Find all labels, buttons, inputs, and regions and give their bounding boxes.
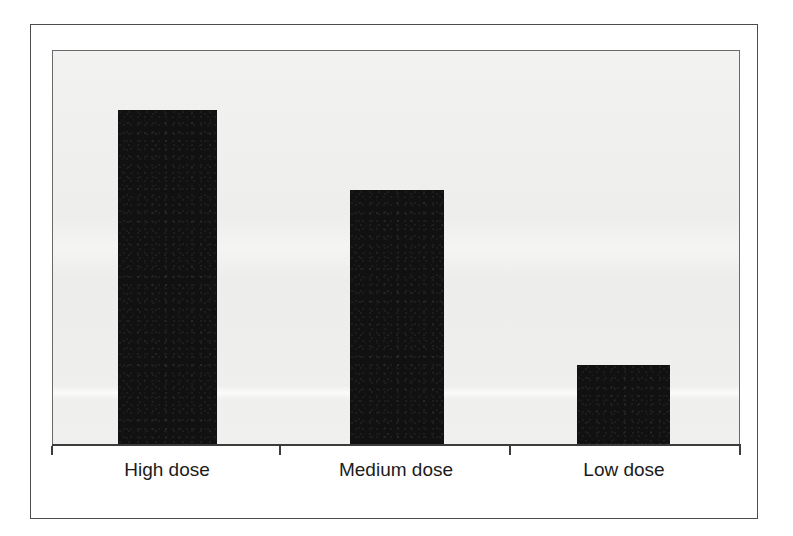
x-axis-tick-0 <box>51 446 53 455</box>
bar-low-dose <box>577 365 670 444</box>
x-axis-label-low-dose: Low dose <box>474 458 774 482</box>
x-axis-baseline <box>52 444 741 446</box>
x-axis-tick-3 <box>739 446 741 455</box>
bar-chart-figure: High dose Medium dose Low dose <box>0 0 793 536</box>
bar-medium-dose <box>350 190 444 444</box>
x-axis-tick-2 <box>509 446 511 455</box>
x-axis-tick-1 <box>279 446 281 455</box>
bar-high-dose <box>118 110 217 444</box>
